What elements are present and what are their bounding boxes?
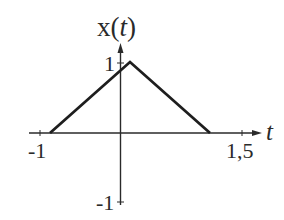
plot-title: x(t)	[97, 12, 136, 42]
y-tick-label-1: 1	[104, 51, 115, 76]
x-axis-label: t	[266, 118, 274, 145]
x-tick-label-1-5: 1,5	[226, 138, 254, 163]
x-tick-label-neg1: -1	[28, 138, 46, 163]
x-axis-arrow-icon	[252, 130, 262, 136]
y-axis-arrow-icon	[118, 43, 124, 53]
signal-plot: x(t) t -1 1,5 1 -1	[0, 0, 284, 220]
signal-curve	[50, 62, 210, 133]
y-tick-label-neg1: -1	[96, 190, 114, 215]
